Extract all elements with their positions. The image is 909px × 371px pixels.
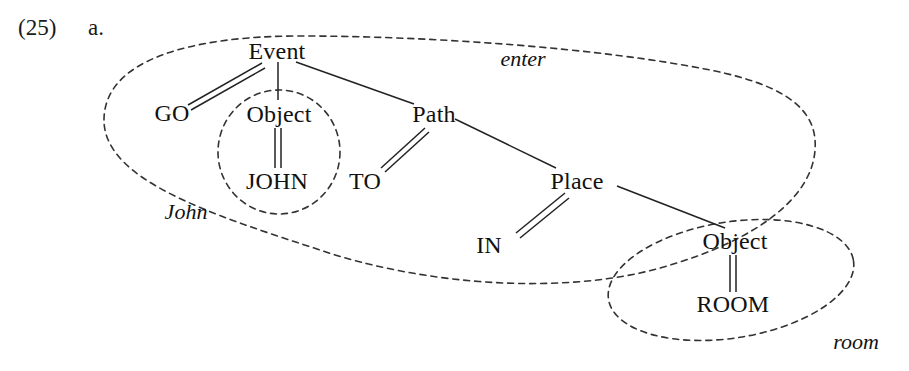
- branch-place-object: [617, 186, 725, 228]
- conceptual-structure-figure: (25) a. Event GO Object JOHN Path TO Pla…: [0, 0, 909, 371]
- node-object-agent: Object: [246, 102, 311, 126]
- node-path: Path: [412, 102, 455, 126]
- node-event: Event: [249, 39, 306, 63]
- example-sub-label: a.: [88, 15, 104, 41]
- gloss-room: room: [833, 331, 879, 353]
- node-john: JOHN: [246, 169, 308, 193]
- node-to: TO: [349, 169, 381, 193]
- branch-place-in: [516, 193, 569, 238]
- branch-object-john: [275, 128, 281, 168]
- node-go: GO: [154, 101, 189, 125]
- example-number: (25): [18, 15, 56, 41]
- branch-path-place: [455, 119, 556, 168]
- branch-event-path: [296, 62, 414, 104]
- tree-diagram-canvas: [0, 0, 909, 371]
- gloss-enter: enter: [500, 48, 545, 70]
- node-room: ROOM: [697, 292, 770, 316]
- branch-path-to: [381, 128, 429, 172]
- node-in: IN: [476, 233, 502, 257]
- node-place: Place: [551, 169, 604, 193]
- room-constituent-ellipse: [599, 203, 862, 356]
- node-object-goal: Object: [702, 229, 767, 253]
- branch-object-room: [730, 255, 736, 292]
- gloss-john: John: [165, 201, 208, 223]
